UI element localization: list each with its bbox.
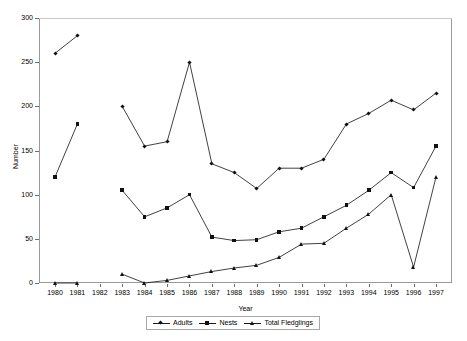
legend-square-icon: [199, 319, 216, 327]
data-point-nests: [277, 230, 281, 234]
data-point-total-fledglings: [187, 274, 191, 278]
data-point-nests: [255, 238, 259, 242]
legend-label: Adults: [173, 319, 192, 327]
data-point-total-fledglings: [389, 193, 393, 197]
legend-triangle-icon: [244, 319, 261, 327]
data-point-nests: [412, 186, 416, 190]
data-point-total-fledglings: [322, 241, 326, 245]
data-point-adults: [434, 91, 438, 95]
data-point-total-fledglings: [53, 281, 57, 285]
legend-entry-nests[interactable]: Nests: [199, 319, 237, 327]
data-point-nests: [53, 175, 57, 179]
legend-label: Nests: [219, 319, 237, 327]
data-point-total-fledglings: [344, 226, 348, 230]
data-point-nests: [120, 188, 124, 192]
data-point-total-fledglings: [254, 263, 258, 267]
data-point-nests: [389, 171, 393, 175]
data-point-nests: [345, 203, 349, 207]
data-point-nests: [143, 215, 147, 219]
data-point-nests: [434, 144, 438, 148]
data-point-total-fledglings: [434, 175, 438, 179]
data-point-total-fledglings: [299, 242, 303, 246]
data-point-nests: [322, 215, 326, 219]
line-chart: Number Year 050100150200250300 198019811…: [0, 0, 467, 341]
data-point-nests: [76, 122, 80, 126]
chart-legend: AdultsNestsTotal Fledglings: [146, 316, 320, 330]
data-point-total-fledglings: [209, 269, 213, 273]
data-point-nests: [210, 235, 214, 239]
data-point-total-fledglings: [277, 255, 281, 259]
data-point-total-fledglings: [165, 278, 169, 282]
data-point-nests: [232, 239, 236, 243]
data-point-nests: [188, 193, 192, 197]
data-point-nests: [165, 206, 169, 210]
data-point-nests: [300, 226, 304, 230]
data-point-total-fledglings: [232, 266, 236, 270]
series-line-adults: [55, 36, 77, 54]
legend-label: Total Fledglings: [264, 319, 313, 327]
legend-diamond-icon: [153, 319, 170, 327]
data-point-total-fledglings: [75, 281, 79, 285]
legend-entry-adults[interactable]: Adults: [153, 319, 192, 327]
data-point-nests: [367, 188, 371, 192]
data-point-total-fledglings: [411, 265, 415, 269]
legend-entry-total-fledglings[interactable]: Total Fledglings: [244, 319, 313, 327]
series-line-nests: [55, 124, 77, 177]
data-point-total-fledglings: [142, 281, 146, 285]
data-point-total-fledglings: [120, 272, 124, 276]
data-point-total-fledglings: [366, 212, 370, 216]
